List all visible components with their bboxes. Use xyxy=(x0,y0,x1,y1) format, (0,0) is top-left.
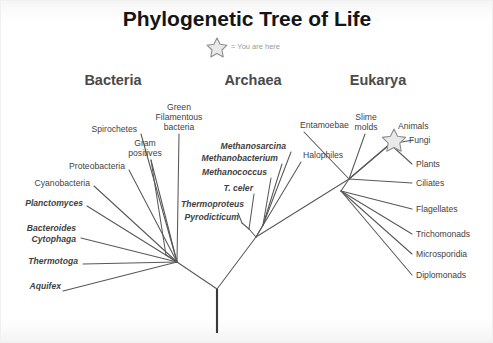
branch-archaea-3 xyxy=(249,194,254,229)
branch-eukarya-7 xyxy=(341,179,349,191)
taxon-label-thermoproteus: Thermoproteus xyxy=(181,199,244,209)
branch-eukarya-6 xyxy=(349,179,412,183)
taxon-label-ciliates: Ciliates xyxy=(416,178,444,188)
taxon-label-flagellates: Flagellates xyxy=(416,204,458,214)
domain-heading-eukarya: Eukarya xyxy=(350,72,407,88)
taxon-label-bacteroides: Bacteroides xyxy=(27,223,76,233)
taxon-label-planctomyces: Planctomyces xyxy=(25,198,83,208)
you-are-here-legend: = You are here xyxy=(207,38,280,57)
taxon-label-trichomonads: Trichomonads xyxy=(416,229,470,239)
branch-bacteria-7 xyxy=(151,160,177,262)
taxon-label-diplomonads: Diplomonads xyxy=(416,270,466,280)
branch-bacteria-8 xyxy=(177,134,179,262)
branch-bacteria-2 xyxy=(81,238,177,262)
taxon-label-aquifex: Aquifex xyxy=(28,281,62,291)
taxon-label-green-filamentous-2: Filamentous xyxy=(156,112,203,122)
taxon-label-thermotoga: Thermotoga xyxy=(28,256,78,266)
branch-eukarya-9 xyxy=(341,191,412,234)
branch-bacteria-4 xyxy=(94,186,177,262)
taxon-label-t-celer: T. celer xyxy=(224,183,254,193)
branch-bacteria-5 xyxy=(129,170,177,262)
taxon-label-cytophaga: Cytophaga xyxy=(32,234,77,244)
branch-main-1 xyxy=(217,237,256,289)
phylogenetic-tree-figure: Phylogenetic Tree of Life = You are here… xyxy=(0,0,493,343)
taxon-label-spirochetes: Spirochetes xyxy=(92,124,137,134)
legend-caption: = You are here xyxy=(231,42,280,51)
taxon-label-cyanobacteria: Cyanobacteria xyxy=(35,178,91,188)
taxon-label-green-filamentous-1: Green xyxy=(167,102,191,112)
branch-archaea-0 xyxy=(249,229,256,237)
taxon-label-fungi: Fungi xyxy=(409,135,431,145)
tree-diagram-canvas: Phylogenetic Tree of Life = You are here… xyxy=(1,1,493,343)
taxon-label-proteobacteria: Proteobacteria xyxy=(69,161,125,171)
taxon-label-plants: Plants xyxy=(416,159,440,169)
branch-bacteria-0 xyxy=(63,262,177,291)
taxon-label-entamoebae: Entamoebae xyxy=(300,120,349,130)
branch-main-0 xyxy=(177,262,217,289)
taxon-label-halophiles: Halophiles xyxy=(303,150,343,160)
taxon-label-microsporidia: Microsporidia xyxy=(416,249,467,259)
star-icon xyxy=(207,38,227,57)
branch-eukarya-11 xyxy=(341,191,412,275)
taxon-labels: SpirochetesGreenFilamentousbacteriaGramp… xyxy=(25,102,470,291)
taxon-label-green-filamentous-3: bacteria xyxy=(164,122,195,132)
domain-heading-archaea: Archaea xyxy=(224,72,282,88)
taxon-label-slime-molds-2: molds xyxy=(355,122,378,132)
taxon-label-animals: Animals xyxy=(398,121,429,131)
taxon-label-gram-positives-2: positives xyxy=(128,148,161,158)
branch-bacteria-1 xyxy=(83,262,177,264)
taxon-label-methanobacterium: Methanobacterium xyxy=(202,153,279,163)
branch-archaea-1 xyxy=(242,223,249,229)
domain-heading-bacteria: Bacteria xyxy=(84,72,142,88)
domain-headings: Bacteria Archaea Eukarya xyxy=(84,72,407,88)
taxon-label-pyrodicticum: Pyrodicticum xyxy=(185,212,240,222)
taxon-label-methanococcus: Methanococcus xyxy=(202,167,267,177)
taxon-label-gram-positives-1: Gram xyxy=(134,138,155,148)
taxon-label-methanosarcina: Methanosarcina xyxy=(221,141,287,151)
taxon-label-slime-molds-1: Slime xyxy=(355,112,377,122)
page-title: Phylogenetic Tree of Life xyxy=(123,7,372,30)
